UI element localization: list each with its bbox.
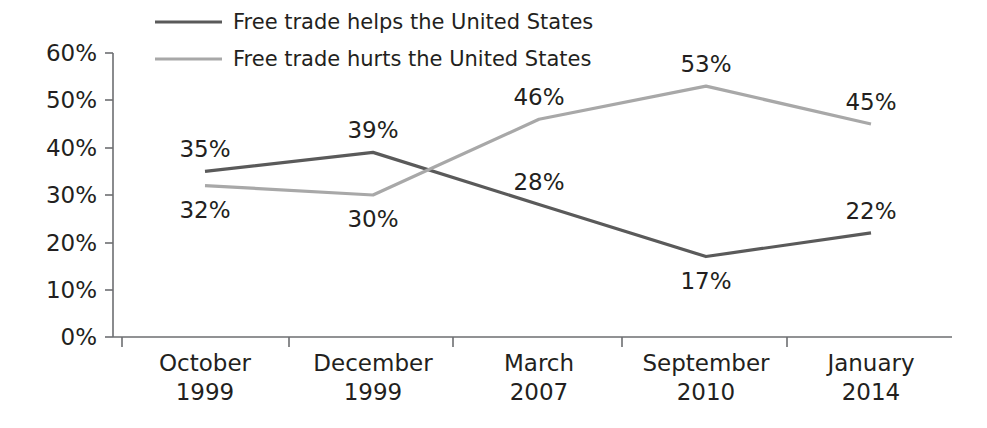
line-chart: 60% 50% 40% 30% 20% 10% 0% October 1999 … xyxy=(0,0,987,428)
data-label-group: 35%39%28%17%22%32%30%46%53%45% xyxy=(179,51,896,293)
legend: Free trade helps the United States Free … xyxy=(155,10,593,71)
data-label-hurts-0: 32% xyxy=(179,197,230,223)
y-axis-label-20: 20% xyxy=(46,230,97,256)
data-label-helps-2: 28% xyxy=(513,169,564,195)
x-axis-label-3-year: 2010 xyxy=(677,379,736,405)
x-axis-label-1-year: 1999 xyxy=(344,379,403,405)
chart-canvas: 60% 50% 40% 30% 20% 10% 0% October 1999 … xyxy=(0,0,987,428)
data-label-helps-4: 22% xyxy=(845,198,896,224)
x-axis: October 1999 December 1999 March 2007 Se… xyxy=(113,337,952,405)
data-label-helps-3: 17% xyxy=(680,268,731,294)
x-axis-label-1-month: December xyxy=(313,350,433,376)
data-label-helps-0: 35% xyxy=(179,136,230,162)
x-axis-label-4-year: 2014 xyxy=(842,379,901,405)
x-axis-label-0-month: October xyxy=(159,350,252,376)
y-axis-label-60: 60% xyxy=(46,40,97,66)
legend-label-helps: Free trade helps the United States xyxy=(233,10,593,34)
legend-label-hurts: Free trade hurts the United States xyxy=(233,47,591,71)
y-axis-label-50: 50% xyxy=(46,87,97,113)
series-line-helps xyxy=(205,152,871,256)
x-axis-label-2-month: March xyxy=(504,350,574,376)
data-label-hurts-4: 45% xyxy=(845,89,896,115)
y-axis-label-0: 0% xyxy=(61,324,98,350)
x-axis-label-0-year: 1999 xyxy=(176,379,235,405)
x-axis-label-3-month: September xyxy=(642,350,770,376)
x-axis-label-2-year: 2007 xyxy=(510,379,569,405)
y-axis-label-40: 40% xyxy=(46,135,97,161)
data-label-hurts-1: 30% xyxy=(347,206,398,232)
data-label-hurts-3: 53% xyxy=(680,51,731,77)
y-axis-label-30: 30% xyxy=(46,182,97,208)
x-axis-label-4-month: January xyxy=(825,350,914,376)
y-axis-label-10: 10% xyxy=(46,277,97,303)
y-axis: 60% 50% 40% 30% 20% 10% 0% xyxy=(46,40,113,350)
data-label-helps-1: 39% xyxy=(347,117,398,143)
data-label-hurts-2: 46% xyxy=(513,84,564,110)
